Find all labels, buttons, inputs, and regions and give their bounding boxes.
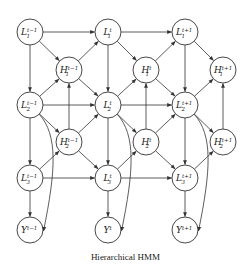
node-H1_t: Ht1 bbox=[133, 57, 159, 83]
svg-text:1: 1 bbox=[108, 33, 112, 39]
node-L1_tp1: Lt+11 bbox=[172, 19, 198, 45]
edge-L1_tm1-to-H1_tm1 bbox=[39, 41, 59, 61]
svg-text:1: 1 bbox=[66, 71, 70, 77]
hierarchical-hmm-diagram: Lt−11Lt1Lt+11Ht−11Ht1Ht+11Lt−12Lt2Lt+12H… bbox=[0, 0, 251, 266]
svg-text:3: 3 bbox=[108, 179, 112, 185]
node-Y_tm1: Yt−1 bbox=[17, 217, 43, 243]
node-H2_tp1: Ht+12 bbox=[210, 129, 236, 155]
node-Y_t: Yt bbox=[95, 217, 121, 243]
edge-L1_t-to-H1_t bbox=[117, 41, 136, 60]
svg-text:1: 1 bbox=[27, 33, 31, 39]
edge-L1_tp1-to-H1_tp1 bbox=[194, 41, 213, 60]
node-H2_t: Ht2 bbox=[133, 129, 159, 155]
node-L3_t: Lt3 bbox=[95, 165, 121, 191]
node-H1_tp1: Ht+11 bbox=[210, 57, 236, 83]
edge-H2_t-to-L3_tp1 bbox=[156, 151, 176, 169]
figure-caption: Hierarchical HMM bbox=[0, 252, 251, 262]
svg-text:3: 3 bbox=[27, 179, 31, 185]
node-L3_tp1: Lt+13 bbox=[172, 165, 198, 191]
svg-text:2: 2 bbox=[181, 106, 186, 112]
edge-H2_tm1-to-L2_t bbox=[78, 114, 98, 133]
edge-L2_tm1-to-H2_tm1 bbox=[39, 114, 59, 133]
edge-H1_tm1-to-L2_t bbox=[79, 79, 98, 96]
svg-text:2: 2 bbox=[145, 143, 150, 149]
node-H2_tm1: Ht−12 bbox=[56, 129, 82, 155]
node-Y_tp1: Yt+1 bbox=[172, 217, 198, 243]
node-L1_t: Lt1 bbox=[95, 19, 121, 45]
svg-text:2: 2 bbox=[65, 143, 70, 149]
edge-H2_tm1-to-L3_t bbox=[79, 151, 99, 169]
svg-text:1: 1 bbox=[182, 33, 186, 39]
edge-L2_tp1-to-H1_tp1 bbox=[195, 79, 214, 96]
svg-text:3: 3 bbox=[182, 179, 186, 185]
svg-text:2: 2 bbox=[219, 143, 224, 149]
edge-H1_t-to-L2_tp1 bbox=[156, 79, 175, 96]
edge-H1_t-to-L1_tp1 bbox=[155, 41, 175, 61]
svg-text:2: 2 bbox=[26, 106, 31, 112]
edge-L3_tm1-to-H2_tm1 bbox=[40, 151, 60, 169]
node-L3_tm1: Lt−13 bbox=[17, 165, 43, 191]
edge-L3_tp1-to-H2_tp1 bbox=[194, 151, 213, 169]
edge-L2_t-to-H1_t bbox=[118, 79, 137, 96]
edge-H2_t-to-L2_tp1 bbox=[155, 114, 175, 133]
svg-text:2: 2 bbox=[107, 106, 112, 112]
svg-text:1: 1 bbox=[220, 71, 224, 77]
edge-L2_tm1-to-H1_tm1 bbox=[40, 79, 59, 96]
node-L2_tp1: Lt+12 bbox=[172, 92, 198, 118]
node-H1_tm1: Ht−11 bbox=[56, 57, 82, 83]
node-L2_t: Lt2 bbox=[95, 92, 121, 118]
node-L1_tm1: Lt−11 bbox=[17, 19, 43, 45]
edge-L3_t-to-H2_t bbox=[117, 151, 136, 169]
node-L2_tm1: Lt−12 bbox=[17, 92, 43, 118]
edge-H1_tm1-to-L1_t bbox=[78, 41, 98, 61]
svg-text:1: 1 bbox=[146, 71, 150, 77]
